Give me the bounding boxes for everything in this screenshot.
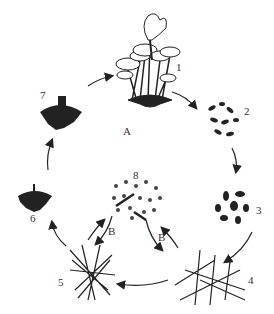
primary-mycelium-illustration bbox=[175, 250, 245, 305]
stage-label-3: 3 bbox=[256, 205, 262, 216]
stage-label-7: 7 bbox=[40, 90, 46, 101]
mushroom-cluster-illustration bbox=[116, 14, 180, 107]
asexual-spores-illustration bbox=[112, 180, 162, 220]
germinating-spores-illustration bbox=[215, 191, 249, 224]
stage-label-6: 6 bbox=[30, 213, 36, 224]
stage-label-4: 4 bbox=[248, 275, 254, 286]
spores-illustration bbox=[208, 102, 239, 137]
path-label-b-left: B bbox=[108, 226, 115, 237]
stage-label-8: 8 bbox=[133, 170, 139, 181]
life-cycle-diagram bbox=[0, 0, 274, 314]
stage-label-5: 5 bbox=[58, 277, 64, 288]
stage-label-1: 1 bbox=[176, 62, 182, 73]
young-fruiting-body-illustration bbox=[40, 96, 82, 130]
secondary-mycelium-illustration bbox=[70, 245, 115, 300]
stage-label-2: 2 bbox=[244, 106, 250, 117]
cycle-label-a: A bbox=[123, 126, 131, 137]
path-label-b-right: B bbox=[158, 232, 165, 243]
mycelial-knot-illustration bbox=[18, 184, 52, 212]
